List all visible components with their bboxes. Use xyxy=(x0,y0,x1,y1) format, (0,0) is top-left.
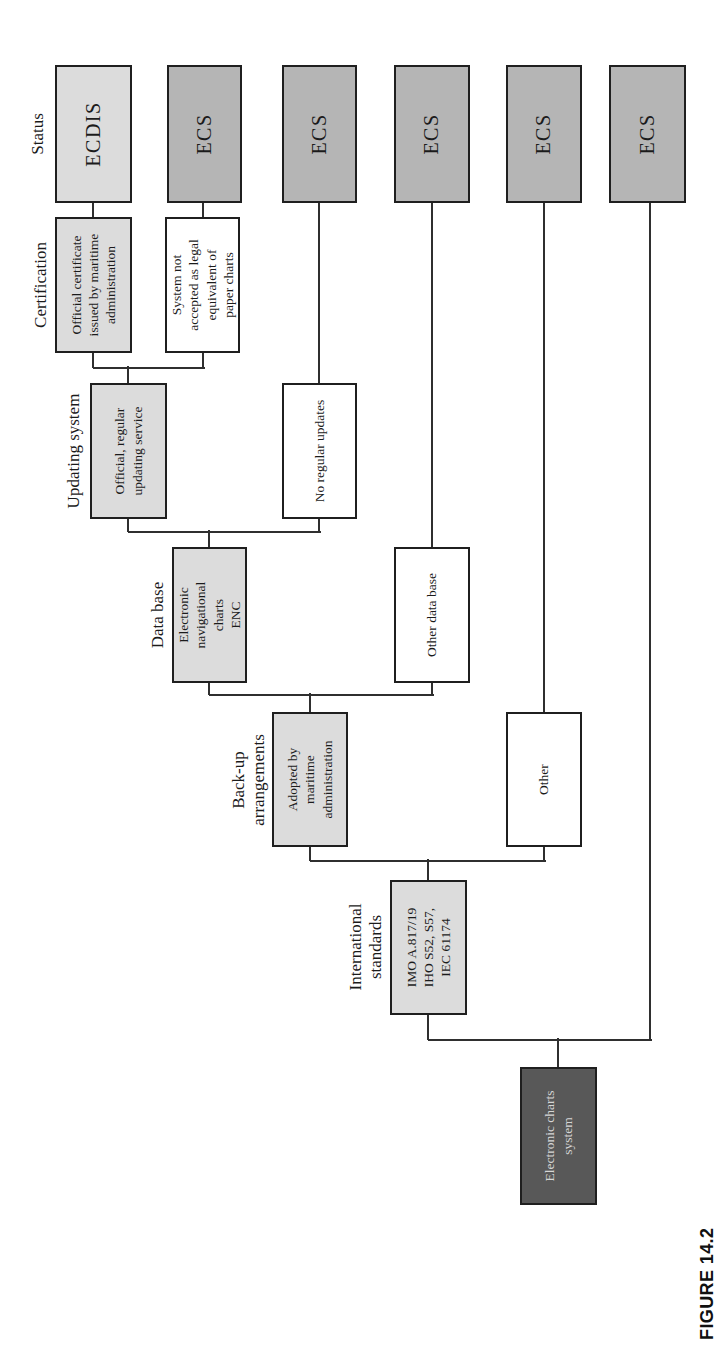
connector-line xyxy=(208,681,210,695)
connector-line xyxy=(310,860,546,862)
node-status-ecs-3: ECS xyxy=(282,65,357,203)
column-header-back-up-arrangements: Back-up arrangements xyxy=(229,734,270,826)
column-header-international-standards: International standards xyxy=(346,904,387,991)
node-other-data-base: Other data base xyxy=(394,547,470,683)
connector-line xyxy=(431,201,433,547)
connector-line xyxy=(557,1038,559,1067)
node-electronic-charts-system: Electronic charts system xyxy=(520,1067,597,1205)
node-system-not-accepted: System not accepted as legal equivalent … xyxy=(165,217,240,353)
connector-line xyxy=(92,351,94,368)
node-adopted-by-maritime-administration: Adopted by maritime administration xyxy=(272,712,348,847)
rotated-flowchart-canvas: FIGURE 14.2 Electronic charts systemIMO … xyxy=(0,0,721,1346)
connector-line xyxy=(209,694,434,696)
connector-line xyxy=(431,681,433,695)
connector-line xyxy=(202,201,204,217)
column-header-certification: Certification xyxy=(31,242,51,328)
node-electronic-navigational-charts-enc: Electronic navigational charts ENC xyxy=(172,547,247,683)
connector-line xyxy=(92,201,94,217)
connector-line xyxy=(428,1039,652,1041)
connector-line xyxy=(649,201,651,1040)
node-status-ecdis: ECDIS xyxy=(55,65,132,203)
connector-line xyxy=(127,517,129,532)
column-header-data-base: Data base xyxy=(148,582,168,649)
connector-line xyxy=(128,531,321,533)
node-status-ecs-6: ECS xyxy=(609,65,686,203)
node-no-regular-updates: No regular updates xyxy=(282,383,357,519)
connector-line xyxy=(309,845,311,861)
node-official-certificate: Official certificate issued by maritime … xyxy=(55,217,132,353)
node-international-standards: IMO A.817/19 IHO S52, S57, IEC 61174 xyxy=(390,880,467,1015)
node-status-ecs-4: ECS xyxy=(394,65,470,203)
connector-line xyxy=(318,517,320,532)
connector-line xyxy=(427,1013,429,1040)
connector-line xyxy=(93,367,205,369)
connector-line xyxy=(318,201,320,383)
node-official-regular-updating-service: Official, regular updating service xyxy=(90,383,167,519)
node-backup-other: Other xyxy=(506,712,582,847)
scanned-book-page: FIGURE 14.2 Electronic charts systemIMO … xyxy=(0,0,721,1346)
connector-line xyxy=(543,201,545,712)
column-header-updating-system: Updating system xyxy=(64,394,84,509)
node-status-ecs-2: ECS xyxy=(167,65,242,203)
figure-caption: FIGURE 14.2 xyxy=(697,1228,718,1340)
column-header-status: Status xyxy=(28,113,48,155)
connector-line xyxy=(202,351,204,368)
connector-line xyxy=(543,845,545,861)
node-status-ecs-5: ECS xyxy=(506,65,582,203)
connector-line xyxy=(427,859,429,880)
